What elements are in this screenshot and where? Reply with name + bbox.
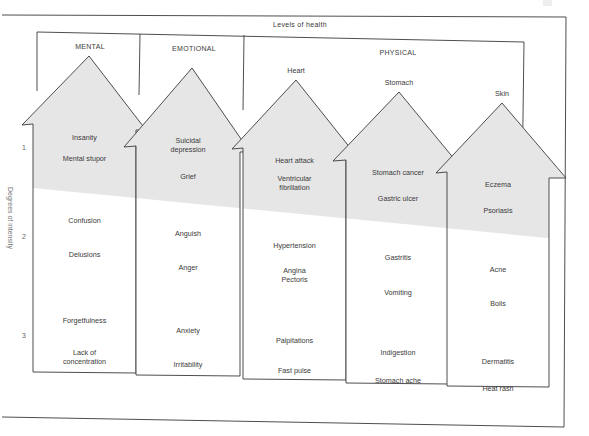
frame-right-line — [564, 17, 566, 427]
symptom-label: Vomiting — [384, 288, 412, 297]
symptom-label: Insanity — [72, 133, 97, 142]
symptom-label: Eczema — [485, 180, 511, 189]
arrow-sublabel-skin: Skin — [495, 89, 509, 98]
symptom-label: Anger — [178, 263, 198, 272]
symptom-label: Stomach ache — [375, 376, 421, 385]
symptom-label: Anguish — [175, 229, 201, 238]
levels-of-health-diagram: Levels of health MENTAL EMOTIONAL PHYSIC… — [0, 0, 589, 436]
symptom-label: Grief — [180, 172, 196, 181]
arrow-sublabel-stomach: Stomach — [385, 78, 413, 87]
axis-title: Degrees of intensity — [6, 187, 14, 249]
axis-tick-3: 3 — [22, 332, 26, 339]
corner-mark — [543, 0, 552, 6]
arrow-skin: SkinEczemaPsoriasisAcneBoilsDermatitisHe… — [436, 89, 566, 393]
symptom-label: Irritability — [174, 360, 203, 369]
arrow-emotional: SuicidaldepressionGriefAnguishAngerAnxie… — [124, 68, 250, 376]
symptom-label: Suicidal — [175, 136, 201, 145]
symptom-label: Gastric ulcer — [378, 194, 419, 203]
symptom-label: Lack of — [73, 348, 96, 357]
symptom-label: fibrillation — [279, 183, 309, 192]
arrow-mental: InsanityMental stuporConfusionDelusionsF… — [22, 56, 146, 373]
symptom-label: Ventricular — [278, 174, 313, 183]
symptom-label: Confusion — [68, 216, 100, 225]
diagram-canvas: Levels of health MENTAL EMOTIONAL PHYSIC… — [0, 0, 589, 436]
symptom-label: Indigestion — [381, 348, 416, 357]
frame-bottom-line — [2, 417, 564, 427]
symptom-label: Mental stupor — [63, 154, 107, 163]
bracket-divider-emotional-physical — [243, 35, 244, 110]
symptom-label: Palpitations — [276, 336, 314, 345]
symptom-label: Psoriasis — [483, 206, 513, 215]
symptom-label: Hypertension — [273, 241, 315, 250]
symptom-label: Gastritis — [385, 253, 412, 262]
frame-top-line — [2, 15, 566, 17]
arrows-group: InsanityMental stuporConfusionDelusionsF… — [22, 56, 566, 393]
axis-tick-1: 1 — [22, 144, 26, 151]
arrow-heart: HeartHeart attackVentricularfibrillation… — [232, 66, 355, 380]
symptom-label: depression — [170, 145, 205, 154]
symptom-label: Delusions — [69, 250, 101, 259]
arrow-stomach: StomachStomach cancerGastric ulcerGastri… — [333, 78, 460, 385]
symptom-label: Acne — [490, 265, 506, 274]
symptom-label: Forgetfulness — [63, 316, 107, 325]
symptom-label: Pectoris — [282, 275, 308, 284]
symptom-label: concentration — [63, 357, 106, 366]
category-mental: MENTAL — [75, 43, 105, 50]
symptom-label: Heat rash — [482, 384, 513, 393]
bracket-divider-mental-emotional — [139, 34, 140, 95]
symptom-label: Angina — [283, 266, 305, 275]
symptom-label: Boils — [490, 299, 506, 308]
symptom-label: Heart attack — [275, 156, 314, 165]
axis-tick-2: 2 — [22, 233, 26, 240]
symptom-label: Fast pulse — [278, 366, 311, 375]
symptom-label: Dermatitis — [482, 357, 515, 366]
symptom-label: Anxiety — [176, 326, 200, 335]
symptom-label: Stomach cancer — [372, 168, 425, 177]
category-physical: PHYSICAL — [379, 49, 416, 56]
category-emotional: EMOTIONAL — [172, 45, 216, 52]
arrow-sublabel-heart: Heart — [287, 66, 305, 75]
diagram-title: Levels of health — [273, 21, 327, 28]
